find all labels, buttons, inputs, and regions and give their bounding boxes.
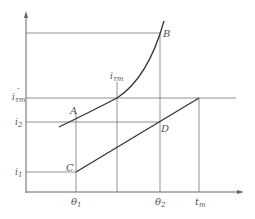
point-label-d: D	[160, 123, 169, 134]
y-label-itm-sup: ″	[17, 87, 20, 95]
curve-label: iτm	[110, 71, 124, 83]
y-label-i1: i1	[15, 167, 22, 179]
x-label-theta2: θ2	[155, 196, 166, 209]
y-axis-arrow-icon	[24, 11, 28, 18]
point-label-a: A	[69, 105, 77, 116]
x-label-tm: tm	[195, 196, 206, 209]
point-label-c: C	[66, 162, 74, 173]
y-label-i2: i2	[15, 117, 23, 129]
x-axis-arrow-icon	[237, 190, 244, 194]
point-label-b: B	[162, 28, 170, 39]
diagram-canvas: A B C D iτm iτm ″ i2 i1 θ1 θ2 tm	[0, 0, 255, 219]
x-label-theta1: θ1	[71, 196, 82, 209]
